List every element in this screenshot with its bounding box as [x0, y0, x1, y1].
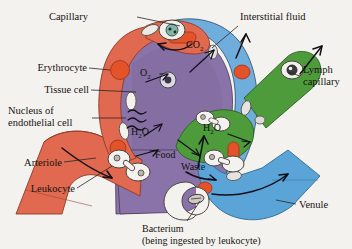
label-interstitial-fluid: Interstitial fluid	[240, 11, 306, 22]
erythrocyte-icon	[111, 61, 130, 80]
nucleus-icon	[255, 116, 265, 124]
label-venule: Venule	[299, 199, 328, 210]
label-leukocyte: Leukocyte	[31, 183, 76, 194]
label-arteriole: Arteriole	[24, 157, 62, 168]
capillary-endothelial-cell	[159, 20, 185, 40]
erythrocyte-icon	[234, 65, 250, 79]
label-erythrocyte: Erythrocyte	[37, 62, 87, 73]
diagram-canvas: O2 CO2 H2O H2O Food Waste Capillary Eryt…	[0, 0, 352, 249]
label-lymph-capillary: Lymph capillary	[303, 64, 340, 87]
molecule-label-waste: Waste	[181, 161, 206, 172]
label-capillary: Capillary	[49, 11, 89, 22]
molecule-label-food: Food	[155, 149, 176, 160]
label-tissue-cell: Tissue cell	[44, 84, 89, 95]
nucleus-icon	[126, 92, 136, 110]
